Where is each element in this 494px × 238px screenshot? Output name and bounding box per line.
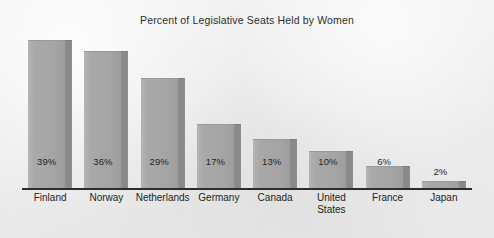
bar-value-label: 29% (141, 156, 178, 167)
bar-face (141, 78, 178, 189)
bar-slot: 39% (28, 28, 72, 189)
bar-shadow-edge (290, 139, 297, 189)
bar[interactable]: 29% (141, 78, 185, 189)
chart-title: Percent of Legislative Seats Held by Wom… (0, 14, 494, 26)
bar[interactable]: 17% (197, 124, 241, 189)
bar[interactable]: 36% (84, 51, 128, 189)
bar-value-label: 36% (84, 156, 121, 167)
x-axis-tick-label: Netherlands (135, 192, 191, 204)
bar[interactable]: 10% (309, 151, 353, 189)
bar-face (84, 51, 121, 189)
x-axis-line (22, 188, 472, 190)
bar-slot: 29% (141, 28, 185, 189)
bar-slot: 13% (253, 28, 297, 189)
bar-value-label: 39% (28, 156, 65, 167)
bar-value-label: 2% (422, 166, 459, 177)
bar-face (366, 166, 403, 189)
x-axis-tick-label: Finland (22, 192, 78, 204)
x-axis-tick-label: Japan (416, 192, 472, 204)
bar-slot: 2% (422, 28, 466, 189)
x-axis-tick-label: Germany (191, 192, 247, 204)
bar[interactable]: 39% (28, 40, 72, 190)
bar-chart-figure: Percent of Legislative Seats Held by Wom… (0, 0, 494, 238)
bar-shadow-edge (346, 151, 353, 189)
bar-slot: 6% (366, 28, 410, 189)
bar-shadow-edge (403, 166, 410, 189)
bar[interactable]: 13% (253, 139, 297, 189)
bar-shadow-edge (178, 78, 185, 189)
plot-area: 39%36%29%17%13%10%6%2% (22, 28, 472, 189)
x-axis-tick-label: Norway (78, 192, 134, 204)
bar-slot: 10% (309, 28, 353, 189)
bar-value-label: 10% (309, 156, 346, 167)
bar[interactable]: 6% (366, 166, 410, 189)
bar-value-label: 6% (366, 156, 403, 167)
bar-shadow-edge (234, 124, 241, 189)
bar-slot: 17% (197, 28, 241, 189)
bar-value-label: 17% (197, 156, 234, 167)
x-axis-tick-label: United States (303, 192, 359, 216)
x-axis-tick-label: Canada (247, 192, 303, 204)
bar-slot: 36% (84, 28, 128, 189)
bar-value-label: 13% (253, 156, 290, 167)
bar-shadow-edge (121, 51, 128, 189)
x-axis-category-labels: FinlandNorwayNetherlandsGermanyCanadaUni… (22, 192, 472, 232)
bar-shadow-edge (65, 40, 72, 190)
x-axis-tick-label: France (360, 192, 416, 204)
